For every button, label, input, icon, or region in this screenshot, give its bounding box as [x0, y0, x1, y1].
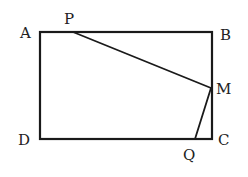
label-m: M	[216, 80, 231, 98]
label-c: C	[218, 131, 229, 149]
rectangle-abcd	[40, 32, 212, 139]
label-p: P	[64, 10, 74, 28]
label-d: D	[18, 131, 30, 149]
geometry-diagram: A P B M C Q D	[0, 0, 248, 177]
label-a: A	[19, 24, 31, 42]
segment-pm	[73, 32, 211, 88]
segment-mq	[195, 88, 211, 139]
label-q: Q	[183, 146, 195, 164]
label-b: B	[220, 26, 231, 44]
